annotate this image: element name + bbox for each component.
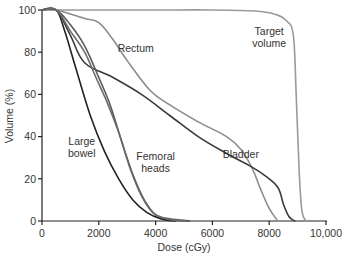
x-ticks: 0200040006000800010,000 [39, 221, 342, 239]
x-tick-label: 2000 [87, 227, 111, 239]
annotations: TargetvolumeRectumBladderLargebowelFemor… [68, 25, 286, 173]
y-tick-label: 20 [24, 173, 36, 185]
curve-femoral-heads-1 [42, 9, 190, 221]
annotation-line: Bladder [223, 148, 260, 160]
x-tick-label: 10,000 [310, 227, 342, 239]
annotation-line: Rectum [118, 42, 154, 54]
annotation-line: Large [68, 135, 95, 147]
y-tick-label: 0 [30, 215, 36, 227]
y-tick-label: 60 [24, 88, 36, 100]
y-axis-title: Volume (%) [3, 89, 15, 143]
y-tick-label: 80 [24, 46, 36, 58]
annotation-large-bowel: Largebowel [68, 135, 95, 159]
y-ticks: 020406080100 [18, 4, 42, 227]
dose-volume-histogram-chart: 020406080100 0200040006000800010,000 Tar… [0, 0, 345, 260]
annotation-femoral-heads: Femoralheads [136, 150, 175, 174]
annotation-line: volume [252, 37, 286, 49]
annotation-line: Target [255, 25, 284, 37]
annotation-bladder: Bladder [223, 148, 260, 160]
annotation-target-volume: Targetvolume [252, 25, 286, 49]
annotation-rectum: Rectum [118, 42, 154, 54]
curve-large-bowel [42, 8, 175, 221]
x-tick-label: 6000 [201, 227, 225, 239]
x-tick-label: 8000 [258, 227, 282, 239]
x-tick-label: 4000 [144, 227, 168, 239]
y-tick-label: 100 [18, 4, 36, 16]
x-tick-label: 0 [39, 227, 45, 239]
y-tick-label: 40 [24, 130, 36, 142]
annotation-line: heads [141, 162, 170, 174]
x-axis-title: Dose (cGy) [157, 241, 210, 253]
annotation-line: Femoral [136, 150, 175, 162]
annotation-line: bowel [68, 147, 95, 159]
